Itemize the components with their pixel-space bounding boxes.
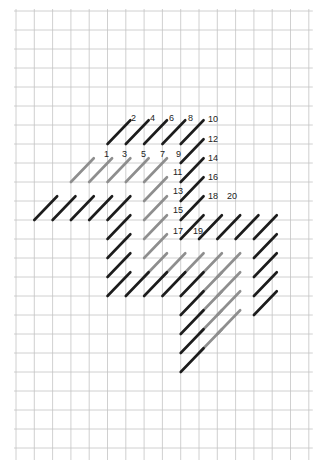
canvas-grid <box>14 9 313 460</box>
stitch-dark <box>181 177 204 201</box>
stitch-dark <box>181 272 204 296</box>
stitch-dark <box>71 196 94 220</box>
stitch-number-label: 3 <box>122 149 127 159</box>
stitch-dark <box>108 272 131 296</box>
stitch-dark <box>181 348 204 372</box>
stitch-number-label: 16 <box>208 172 218 182</box>
stitch-dark <box>254 253 277 277</box>
stitch-number-label: 7 <box>160 149 165 159</box>
stitch-light <box>108 158 131 182</box>
stitch-dark <box>236 215 259 239</box>
stitch-dark <box>108 215 131 239</box>
stitch-dark <box>254 291 277 315</box>
stitch-number-label: 20 <box>227 191 237 201</box>
stitch-number-label: 6 <box>169 113 174 123</box>
stitch-dark <box>126 272 149 296</box>
stitch-light <box>126 158 149 182</box>
stitch-number-label: 19 <box>193 226 203 236</box>
stitch-dark <box>126 120 149 144</box>
stitch-light <box>144 234 167 258</box>
stitch-number-label: 11 <box>173 167 182 177</box>
stitch-number-label: 12 <box>208 134 218 144</box>
stitch-dark <box>144 120 167 144</box>
stitch-number-label: 8 <box>188 113 193 123</box>
stitch-dark <box>217 215 240 239</box>
stitch-dark <box>108 120 131 144</box>
stitch-dark <box>108 196 131 220</box>
stitch-dark <box>181 139 204 163</box>
stitch-number-label: 1 <box>104 149 109 159</box>
stitch-dark <box>108 253 131 277</box>
stitch-number-label: 13 <box>173 186 183 196</box>
stitch-light <box>144 158 167 182</box>
stitch-dark <box>181 158 204 182</box>
stitch-dark <box>181 120 204 144</box>
stitch-diagram: 1234567891011121314151617181920 <box>0 0 322 474</box>
stitch-dark <box>254 272 277 296</box>
stitch-number-label: 5 <box>141 149 146 159</box>
stitch-number-label: 10 <box>208 114 218 124</box>
stitch-light <box>144 196 167 220</box>
stitch-light <box>144 177 167 201</box>
stitch-number-label: 14 <box>208 153 218 163</box>
stitch-dark <box>162 272 185 296</box>
stitch-dark <box>181 329 204 353</box>
stitch-light <box>144 215 167 239</box>
stitch-light <box>71 158 94 182</box>
stitch-dark <box>181 291 204 315</box>
stitch-dark <box>53 196 76 220</box>
stitch-dark <box>254 215 277 239</box>
stitch-dark <box>89 196 112 220</box>
stitch-number-label: 15 <box>173 205 183 215</box>
stitch-dark <box>108 234 131 258</box>
stitch-dark <box>254 234 277 258</box>
stitch-number-label: 4 <box>150 113 155 123</box>
stitch-number-label: 18 <box>208 191 218 201</box>
stitch-dark <box>144 272 167 296</box>
stitch-light <box>89 158 112 182</box>
stitch-dark <box>162 120 185 144</box>
stitch-number-label: 17 <box>173 226 183 236</box>
stitch-dark <box>34 196 57 220</box>
stitch-number-label: 9 <box>176 149 181 159</box>
stitch-number-label: 2 <box>131 113 136 123</box>
stitch-dark <box>181 310 204 334</box>
stitch-dark <box>181 196 204 220</box>
